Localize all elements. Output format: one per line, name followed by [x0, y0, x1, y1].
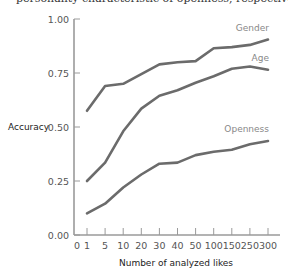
x-tick-label: 5	[102, 240, 108, 251]
series-label-gender: Gender	[236, 23, 269, 33]
series-line-gender	[87, 40, 268, 111]
x-tick-label: 40	[171, 240, 183, 251]
y-tick-label: 0.25	[48, 176, 69, 187]
accuracy-line-chart: 0.000.250.500.751.0001510203040501001502…	[0, 0, 288, 274]
x-tick-label: 30	[153, 240, 165, 251]
y-axis-title: Accuracy	[8, 122, 50, 132]
x-tick-label: 50	[190, 240, 202, 251]
x-tick-label: 300	[259, 240, 277, 251]
y-tick-label: 0.00	[48, 230, 69, 241]
x-tick-label: 10	[117, 240, 129, 251]
x-tick-label: 100	[205, 240, 223, 251]
x-tick-label: 1	[84, 240, 90, 251]
y-tick-label: 1.00	[48, 14, 69, 25]
x-tick-label: 20	[135, 240, 147, 251]
x-tick-label: 250	[241, 240, 259, 251]
y-tick-label: 0.75	[48, 68, 69, 79]
series-label-age: Age	[252, 53, 270, 63]
labels: GenderAgeOpenness	[224, 23, 269, 135]
x-tick-label: 150	[223, 240, 241, 251]
x-tick-label: 0	[74, 240, 80, 251]
series-line-openness	[87, 141, 268, 213]
x-axis-title: Number of analyzed likes	[119, 258, 233, 268]
series-label-openness: Openness	[224, 124, 269, 134]
y-tick-label: 0.50	[48, 122, 69, 133]
